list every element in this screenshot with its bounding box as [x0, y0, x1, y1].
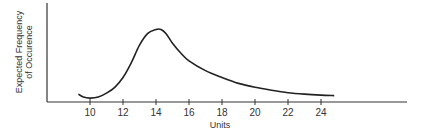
y-axis-label: Expected Frequency of Occurence [4, 2, 44, 102]
x-tick-label: 24 [315, 107, 327, 118]
x-tick-label: 14 [150, 107, 162, 118]
frequency-curve [78, 29, 334, 98]
x-tick-label: 20 [249, 107, 261, 118]
x-axis-label: Units [190, 120, 250, 130]
x-tick-label: 18 [216, 107, 228, 118]
x-tick-label: 16 [183, 107, 195, 118]
x-tick-label: 10 [84, 107, 96, 118]
x-tick-label: 12 [117, 107, 129, 118]
x-tick-label: 22 [282, 107, 294, 118]
y-axis-label-line1: Expected Frequency [14, 11, 24, 94]
y-axis-label-line2: of Occurence [24, 11, 34, 94]
frequency-chart: 1012141618202224 [0, 0, 426, 138]
